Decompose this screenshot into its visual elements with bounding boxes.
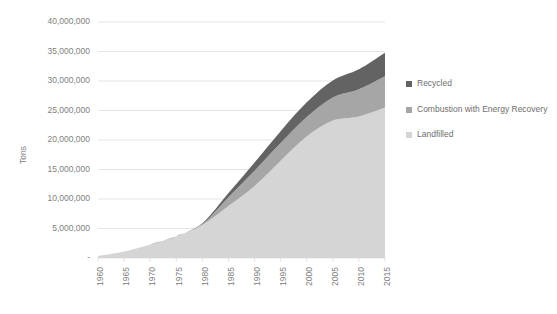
y-axis-tick-label: 35,000,000 xyxy=(47,46,90,56)
y-axis-tick-label: - xyxy=(87,252,90,262)
y-axis-tick-label: 15,000,000 xyxy=(47,164,90,174)
legend-swatch-icon xyxy=(406,81,412,87)
x-axis-tick-label: 1965 xyxy=(121,267,131,286)
x-axis-tick-label: 1960 xyxy=(95,267,105,286)
legend-swatch-icon xyxy=(406,107,412,113)
y-axis-tick-label: 20,000,000 xyxy=(47,134,90,144)
legend-label: Combustion with Energy Recovery xyxy=(417,104,547,116)
x-axis-tick-label: 1970 xyxy=(147,267,157,286)
y-axis-tick-label: 40,000,000 xyxy=(47,16,90,26)
legend-item-landfilled[interactable]: Landfilled xyxy=(406,129,554,141)
y-axis-tick-label: 10,000,000 xyxy=(47,193,90,203)
x-axis-tick-label: 1980 xyxy=(200,267,210,286)
y-axis-title: Tons xyxy=(18,146,28,164)
area-chart: -5,000,00010,000,00015,000,00020,000,000… xyxy=(0,0,557,314)
y-axis-tick-label: 25,000,000 xyxy=(47,105,90,115)
legend-swatch-icon xyxy=(406,132,412,138)
y-axis-ticks: -5,000,00010,000,00015,000,00020,000,000… xyxy=(47,16,90,262)
x-axis-tick-label: 2005 xyxy=(330,267,340,286)
x-axis-tick-label: 2015 xyxy=(382,267,392,286)
legend-label: Recycled xyxy=(417,78,452,90)
legend-label: Landfilled xyxy=(417,129,453,141)
x-axis-tick-label: 2010 xyxy=(356,267,366,286)
y-axis-tick-label: 30,000,000 xyxy=(47,75,90,85)
series-areas xyxy=(98,53,385,258)
legend-item-combustion-with-energy-recovery[interactable]: Combustion with Energy Recovery xyxy=(406,104,554,116)
chart-legend: Recycled Combustion with Energy Recovery… xyxy=(406,78,554,155)
y-axis-tick-label: 5,000,000 xyxy=(52,223,90,233)
plot-area: -5,000,00010,000,00015,000,00020,000,000… xyxy=(0,0,557,314)
x-axis-tick-label: 1975 xyxy=(174,267,184,286)
legend-item-recycled[interactable]: Recycled xyxy=(406,78,554,90)
x-axis-ticks: 1960196519701975198019851990199520002005… xyxy=(95,258,392,286)
x-axis-tick-label: 1985 xyxy=(226,267,236,286)
x-axis-tick-label: 1995 xyxy=(278,267,288,286)
x-axis-tick-label: 2000 xyxy=(304,267,314,286)
x-axis-tick-label: 1990 xyxy=(252,267,262,286)
